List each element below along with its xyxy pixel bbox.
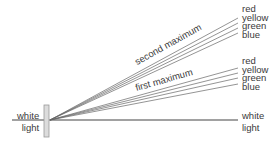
second-maximum-rays bbox=[50, 18, 238, 120]
second-order-color-labels: red yellow green blue bbox=[242, 5, 268, 39]
first-order-color-labels: red yellow green blue bbox=[242, 57, 268, 91]
diagram-canvas bbox=[0, 0, 277, 149]
incident-line1: white bbox=[17, 112, 39, 121]
first-maximum-rays bbox=[50, 68, 238, 120]
diffraction-grating bbox=[44, 105, 49, 137]
color-label-blue: blue bbox=[242, 83, 268, 92]
central-line2: light bbox=[242, 124, 264, 133]
central-light-label: white light bbox=[242, 112, 264, 132]
incident-line2: light bbox=[17, 124, 39, 133]
central-line1: white bbox=[242, 112, 264, 121]
incident-light-label: white light bbox=[17, 112, 39, 132]
color-label-blue: blue bbox=[242, 31, 268, 40]
